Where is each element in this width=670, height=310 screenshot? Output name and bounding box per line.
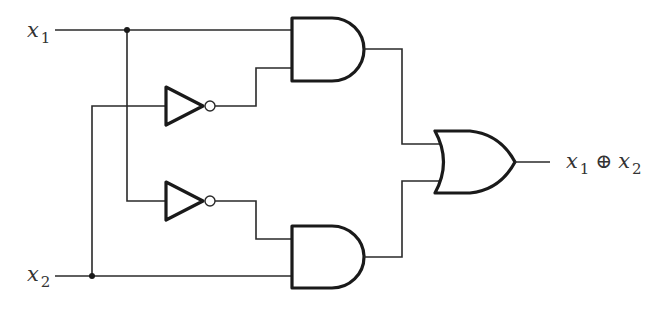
input-label-x1: x1 [27, 18, 50, 47]
wire-and2-to-or [364, 181, 440, 257]
not-gate-2-bubble [205, 196, 215, 206]
not-gate-2-triangle [166, 182, 203, 220]
not-gate-1 [166, 87, 215, 125]
input-label-x2: x2 [27, 262, 50, 291]
and-gate-2 [292, 226, 364, 288]
not-gate-1-triangle [166, 87, 203, 125]
wire-x1-to-not2 [127, 30, 165, 201]
junction-x1 [124, 27, 130, 33]
not-gate-2 [166, 182, 215, 220]
and-gate-1 [292, 18, 364, 81]
wire-x2-to-not1 [92, 106, 165, 276]
wire-and1-to-or [364, 49, 440, 144]
output-label: x1⊕x2 [566, 149, 642, 178]
wire-not1-to-and1 [215, 68, 291, 106]
junction-x2 [89, 273, 95, 279]
xor-circuit-diagram: x1 x2 x1⊕x2 [0, 0, 670, 310]
or-gate [435, 131, 515, 193]
wire-not2-to-and2 [215, 201, 291, 239]
not-gate-1-bubble [205, 101, 215, 111]
